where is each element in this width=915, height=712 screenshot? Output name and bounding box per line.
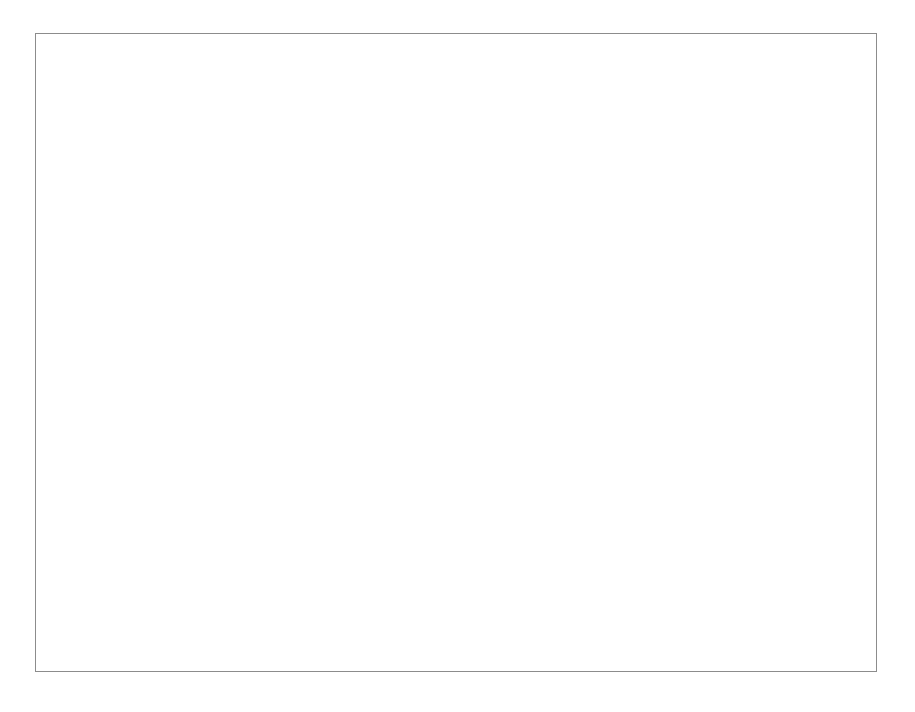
chart-frame [35,33,877,672]
chart-figure: 0123456719751980198519901995200020052010… [0,0,915,712]
